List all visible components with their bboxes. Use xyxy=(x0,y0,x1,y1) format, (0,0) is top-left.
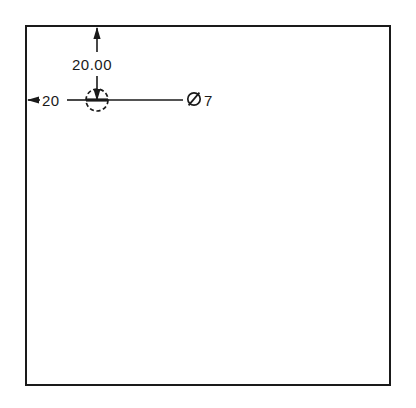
sheet-background xyxy=(0,0,416,408)
drawing-sheet: 20.00 20 7 xyxy=(0,0,416,408)
drawing-canvas: 20.00 20 7 xyxy=(0,0,416,408)
vertical-dimension-value: 20.00 xyxy=(72,56,112,73)
diameter-value: 7 xyxy=(204,92,213,109)
horizontal-dimension-value: 20 xyxy=(42,92,60,109)
